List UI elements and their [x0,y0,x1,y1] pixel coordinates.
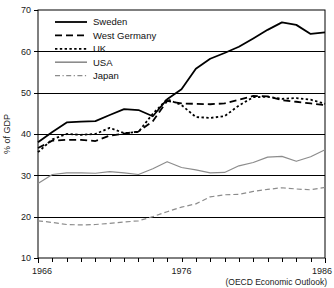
data-series [38,22,325,225]
y-tick-label-60: 60 [21,47,31,57]
y-tick-label-70: 70 [21,5,31,15]
series-line-uk [38,97,325,152]
series-line-sweden [38,22,325,142]
y-tick-label-30: 30 [21,171,31,181]
x-axis-tickmarks [39,258,326,263]
series-line-usa [38,150,325,184]
x-tick-label-1976: 1976 [171,266,191,276]
y-tick-label-10: 10 [21,253,31,263]
legend-label-japan: Japan [93,70,119,81]
x-tick-label-1986: 1986 [312,266,332,276]
y-tick-label-20: 20 [21,212,31,222]
series-line-japan [38,187,325,225]
source-note: (OECD Economic Outlook) [225,277,327,287]
legend: SwedenWest GermanyUKUSAJapan [55,16,156,81]
y-tick-label-50: 50 [21,88,31,98]
y-axis-tick-labels: 10203040506070 [21,5,31,263]
legend-label-sweden: Sweden [93,16,127,27]
legend-label-uk: UK [93,43,107,54]
legend-item-sweden[interactable]: Sweden [55,16,127,27]
legend-label-west-germany: West Germany [93,30,156,41]
legend-item-west-germany[interactable]: West Germany [55,30,156,41]
legend-label-usa: USA [93,57,113,68]
y-tick-label-40: 40 [21,129,31,139]
legend-item-japan[interactable]: Japan [55,70,119,81]
legend-item-usa[interactable]: USA [55,57,113,68]
x-axis-tick-labels: 196619761986 [32,266,332,276]
chart-container: 10203040506070 196619761986 SwedenWest G… [0,0,334,288]
x-tick-label-1966: 1966 [32,266,52,276]
gdp-line-chart: 10203040506070 196619761986 SwedenWest G… [0,0,334,288]
y-axis-tickmarks [34,11,38,259]
y-axis-title: % of GDP [2,114,12,154]
legend-item-uk[interactable]: UK [55,43,107,54]
